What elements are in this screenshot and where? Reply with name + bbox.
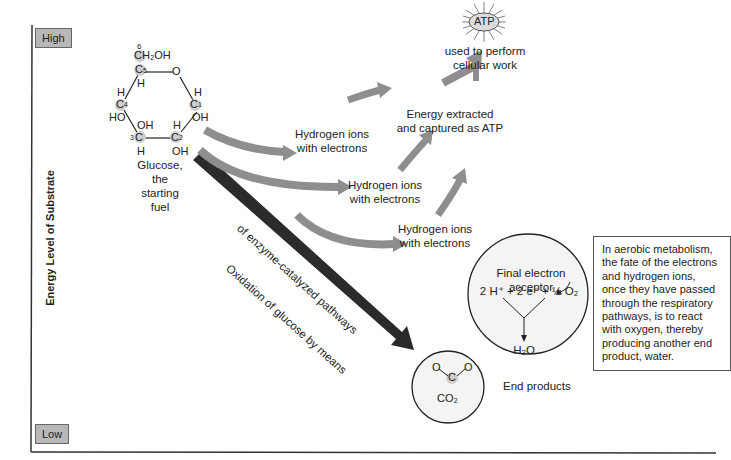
co2-oxygen-left: O xyxy=(432,361,441,373)
hydrogen-label-line: with electrons xyxy=(282,141,382,155)
atp-use-line: cellular work xyxy=(435,58,535,72)
energy-label-line: Energy extracted xyxy=(390,107,510,121)
water-product: H₂O xyxy=(504,343,544,357)
c3-oh: OH xyxy=(137,119,154,131)
y-axis-title: Energy Level of Substrate xyxy=(44,138,56,338)
low-label: Low xyxy=(35,424,69,444)
glucose-caption-line: fuel xyxy=(130,200,190,214)
co2-carbon: C xyxy=(448,371,456,383)
hydrogen-label-3: Hydrogen ions with electrons xyxy=(385,222,485,250)
glucose-caption: Glucose, the starting fuel xyxy=(130,158,190,214)
c3-atom: C xyxy=(135,131,143,143)
co2-label: CO₂ xyxy=(437,392,458,404)
glucose-caption-line: Glucose, xyxy=(130,158,190,172)
c2-oh: OH xyxy=(172,145,189,157)
atp-use-label: used to perform cellular work xyxy=(435,44,535,72)
c4-number: 4 xyxy=(124,101,128,108)
hydrogen-label-line: Hydrogen ions xyxy=(282,127,382,141)
co2-circle xyxy=(412,351,484,423)
y-axis-line xyxy=(31,25,32,452)
hydrogen-label-1: Hydrogen ions with electrons xyxy=(282,127,382,155)
atp-label: ATP xyxy=(474,15,495,27)
atp-use-line: used to perform xyxy=(435,44,535,58)
c3-h: H xyxy=(137,145,145,157)
glucose-caption-line: the xyxy=(130,172,190,186)
c5-number: 5 xyxy=(143,67,147,74)
c4-h: H xyxy=(117,86,125,98)
energy-label: Energy extracted and captured as ATP xyxy=(390,107,510,135)
ring-oxygen: O xyxy=(172,65,181,77)
aerobic-note: In aerobic metabolism, the fate of the e… xyxy=(593,236,731,371)
c1-h: H xyxy=(194,86,202,98)
c3-number: 3 xyxy=(130,134,134,141)
glucose-ring xyxy=(124,72,197,138)
c1-oh: OH xyxy=(192,111,209,123)
hydrogen-label-line: Hydrogen ions xyxy=(385,222,485,236)
x-axis-line xyxy=(31,452,716,453)
c2-atom: C xyxy=(171,131,179,143)
glucose-caption-line: starting xyxy=(130,186,190,200)
hydrogen-label-2: Hydrogen ions with electrons xyxy=(335,178,435,206)
c5-atom: C xyxy=(135,63,143,75)
hydrogen-label-line: with electrons xyxy=(385,236,485,250)
hydrogen-label-line: Hydrogen ions xyxy=(335,178,435,192)
acceptor-equation: 2 H⁺ + 2 e⁻ + ½ O₂ xyxy=(474,284,584,298)
c5-h: H xyxy=(137,77,145,89)
high-label: High xyxy=(35,28,72,48)
c1-number: 1 xyxy=(198,101,202,108)
hydrogen-label-line: with electrons xyxy=(335,192,435,206)
c1-atom: C xyxy=(190,98,198,110)
c2-h: H xyxy=(173,119,181,131)
energy-label-line: and captured as ATP xyxy=(390,121,510,135)
co2-oxygen-right: O xyxy=(464,361,473,373)
end-products-label: End products xyxy=(503,380,571,392)
atom-highlights xyxy=(115,50,201,143)
c2-number: 2 xyxy=(179,134,183,141)
c4-ho: HO xyxy=(109,111,126,123)
c4-atom: C xyxy=(116,98,124,110)
ch2oh-group: CH₂OH xyxy=(134,49,171,61)
